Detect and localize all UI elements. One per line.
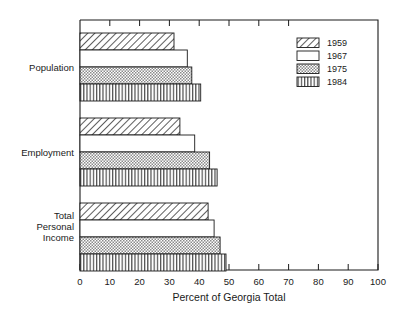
x-axis-title: Percent of Georgia Total xyxy=(172,291,285,303)
chart-svg: Population Employment Total Personal Inc… xyxy=(0,0,419,319)
x-tick-labels: 0 10 20 30 40 50 60 70 80 90 100 xyxy=(77,276,386,287)
legend: 1959 1967 1975 1984 xyxy=(297,38,347,87)
bar-employment-1984 xyxy=(80,169,217,186)
bar-population-1975 xyxy=(80,67,192,84)
bar-population-1967 xyxy=(80,50,187,67)
bar-income-1984 xyxy=(80,254,226,271)
category-label-employment: Employment xyxy=(21,147,74,158)
bar-employment-1975 xyxy=(80,152,210,169)
category-label-population: Population xyxy=(29,62,74,73)
legend-swatch-1984 xyxy=(297,77,319,87)
legend-swatch-1959 xyxy=(297,38,319,48)
category-labels: Population Employment Total Personal Inc… xyxy=(21,62,74,243)
category-label-income-line3: Income xyxy=(43,232,74,243)
bar-income-1967 xyxy=(80,220,214,237)
bar-population-1959 xyxy=(80,33,174,50)
x-tick-label-40: 40 xyxy=(194,276,205,287)
category-label-income-line2: Personal xyxy=(37,221,75,232)
bar-group-total-personal-income xyxy=(80,203,226,271)
x-tick-label-100: 100 xyxy=(370,276,386,287)
bar-employment-1959 xyxy=(80,118,180,135)
bar-group-population xyxy=(80,33,201,101)
bar-chart: Population Employment Total Personal Inc… xyxy=(0,0,419,319)
x-tick-label-50: 50 xyxy=(224,276,235,287)
bar-employment-1967 xyxy=(80,135,195,152)
x-tick-label-0: 0 xyxy=(77,276,82,287)
legend-label-1984: 1984 xyxy=(327,77,347,87)
legend-swatch-1975 xyxy=(297,64,319,74)
x-tick-label-80: 80 xyxy=(313,276,324,287)
x-tick-label-20: 20 xyxy=(134,276,145,287)
bar-group-employment xyxy=(80,118,217,186)
x-tick-label-70: 70 xyxy=(283,276,294,287)
category-label-income-line1: Total xyxy=(54,210,74,221)
bar-population-1984 xyxy=(80,84,201,101)
x-tick-label-30: 30 xyxy=(164,276,175,287)
x-tick-label-60: 60 xyxy=(254,276,265,287)
legend-label-1975: 1975 xyxy=(327,64,347,74)
bar-income-1959 xyxy=(80,203,208,220)
legend-label-1967: 1967 xyxy=(327,51,347,61)
bar-income-1975 xyxy=(80,237,220,254)
legend-label-1959: 1959 xyxy=(327,38,347,48)
x-tick-label-90: 90 xyxy=(343,276,354,287)
x-tick-label-10: 10 xyxy=(105,276,116,287)
legend-swatch-1967 xyxy=(297,51,319,61)
